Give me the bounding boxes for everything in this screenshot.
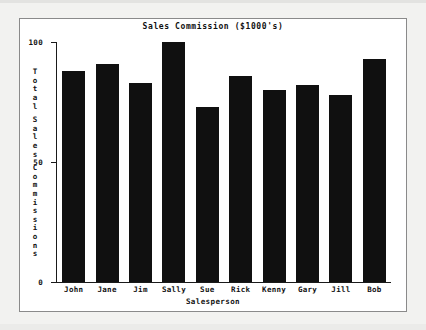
x-axis-tick-label: Sally bbox=[157, 285, 190, 294]
bar[interactable] bbox=[363, 59, 386, 282]
y-axis-tick-label: 0 bbox=[38, 278, 43, 287]
chart-panel: Sales Commission ($1000's) TotalSalesCom… bbox=[19, 18, 407, 312]
bar-slot bbox=[257, 42, 290, 282]
plot-area: 050100 bbox=[57, 42, 391, 282]
bar-series bbox=[57, 42, 391, 282]
x-axis-tick-label: Kenny bbox=[257, 285, 290, 294]
chart-title: Sales Commission ($1000's) bbox=[20, 22, 406, 31]
bar-slot bbox=[191, 42, 224, 282]
bar[interactable] bbox=[129, 83, 152, 282]
bar-slot bbox=[224, 42, 257, 282]
x-axis-tick-label: Sue bbox=[191, 285, 224, 294]
y-axis-tick: 0 bbox=[51, 282, 57, 283]
bar[interactable] bbox=[62, 71, 85, 282]
bar[interactable] bbox=[96, 64, 119, 282]
x-axis-title: Salesperson bbox=[20, 297, 406, 306]
x-axis-tick-label: Jim bbox=[124, 285, 157, 294]
y-axis-tick-label: 100 bbox=[29, 38, 43, 47]
bar[interactable] bbox=[329, 95, 352, 282]
x-axis-tick-label: Jill bbox=[324, 285, 357, 294]
bar[interactable] bbox=[229, 76, 252, 282]
bar-slot bbox=[157, 42, 190, 282]
bar-slot bbox=[358, 42, 391, 282]
bar-slot bbox=[57, 42, 90, 282]
bar-slot bbox=[291, 42, 324, 282]
x-axis-tick-label: Jane bbox=[90, 285, 123, 294]
bar[interactable] bbox=[162, 42, 185, 282]
x-axis-tick-labels: JohnJaneJimSallySueRickKennyGaryJillBob bbox=[57, 285, 391, 294]
x-axis-tick-label: John bbox=[57, 285, 90, 294]
y-axis-title-char: l bbox=[33, 103, 38, 112]
screenshot-root: Sales Commission ($1000's) TotalSalesCom… bbox=[0, 0, 426, 330]
bar-slot bbox=[90, 42, 123, 282]
bar-slot bbox=[124, 42, 157, 282]
x-axis-tick-label: Bob bbox=[358, 285, 391, 294]
x-axis-line bbox=[56, 282, 391, 283]
bar[interactable] bbox=[196, 107, 219, 282]
y-axis-tick-label: 50 bbox=[33, 158, 43, 167]
x-axis-tick-label: Rick bbox=[224, 285, 257, 294]
x-axis-tick-label: Gary bbox=[291, 285, 324, 294]
y-axis-title-char: s bbox=[33, 250, 38, 259]
scan-band-top bbox=[0, 0, 426, 3]
scan-band-bottom bbox=[0, 324, 426, 330]
bar-slot bbox=[324, 42, 357, 282]
bar[interactable] bbox=[296, 85, 319, 282]
bar[interactable] bbox=[263, 90, 286, 282]
